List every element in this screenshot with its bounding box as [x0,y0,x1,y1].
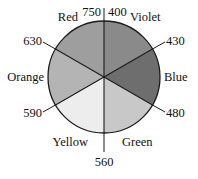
color-label-violet: Violet [130,11,161,24]
color-wheel-diagram [0,0,198,179]
color-wheel-figure: 750 400 430 480 560 590 630 Red Violet B… [0,0,198,179]
color-label-yellow: Yellow [52,136,88,149]
wavelength-label-750: 750 [82,6,101,19]
wavelength-label-430: 430 [166,35,185,48]
color-label-red: Red [58,11,78,24]
color-label-green: Green [122,136,153,149]
wavelength-label-400: 400 [108,6,127,19]
color-label-blue: Blue [164,71,188,84]
leader-630 [43,42,56,49]
wavelength-label-630: 630 [23,35,42,48]
leader-430 [152,42,165,49]
wavelength-label-480: 480 [166,107,185,120]
color-label-orange: Orange [7,71,44,84]
wavelength-label-590: 590 [23,107,42,120]
wavelength-label-560: 560 [95,156,114,169]
leader-590 [43,105,56,112]
leader-480 [152,105,165,112]
